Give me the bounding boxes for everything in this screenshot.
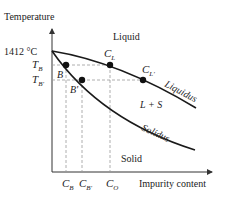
tick-tb: TB: [32, 58, 43, 73]
point-cl-prime: [140, 77, 146, 83]
point-b: [63, 62, 69, 68]
solidus-curve: [52, 51, 195, 150]
region-two-phase: L + S: [139, 99, 162, 110]
tick-co: CO: [106, 177, 118, 192]
tick-cb: CB: [62, 177, 74, 192]
label-cl-prime: CL': [142, 63, 155, 78]
y-axis-label: Temperature: [4, 11, 55, 22]
region-solid: Solid: [121, 153, 142, 164]
tick-tb-prime: TB': [32, 73, 44, 88]
label-cl: CL: [104, 47, 115, 62]
tick-cb-prime: CB': [79, 177, 93, 192]
label-b: B: [57, 69, 63, 80]
point-b-prime: [79, 77, 85, 83]
region-liquid: Liquid: [113, 31, 140, 42]
melting-point-label: 1412 °C: [4, 46, 37, 57]
liquidus-label: Liquidus: [162, 78, 199, 105]
phase-diagram: Temperature Impurity content 1412 °C TB …: [0, 0, 227, 204]
x-axis-label: Impurity content: [139, 178, 206, 189]
label-b-prime: B': [70, 84, 79, 95]
liquidus-curve: [52, 51, 196, 108]
solidus-label: Solidus: [140, 122, 171, 144]
point-cl: [107, 62, 113, 68]
